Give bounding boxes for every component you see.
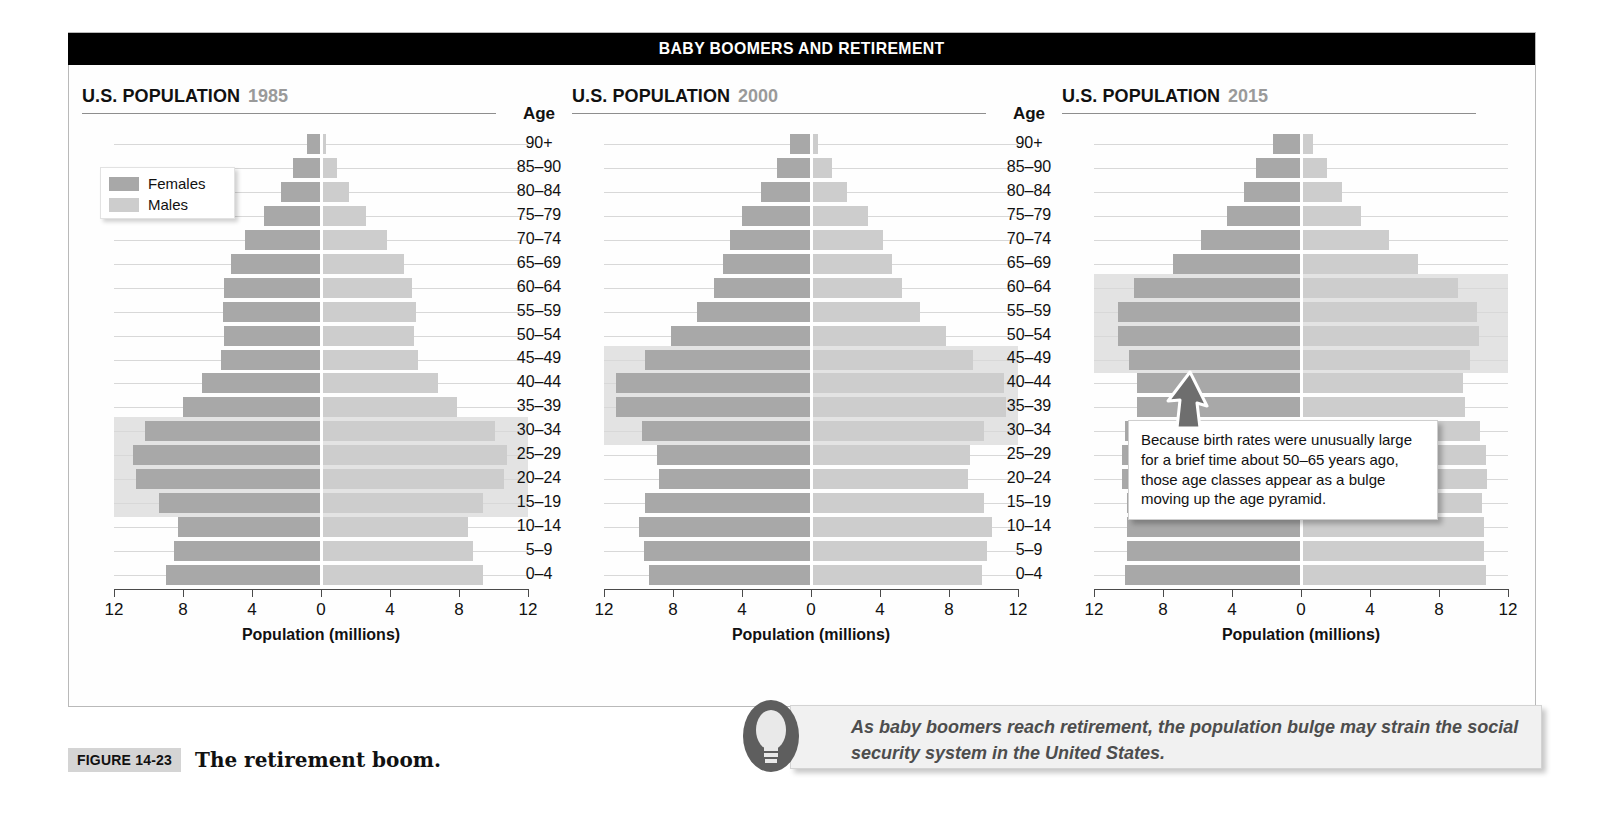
bar-females xyxy=(202,373,321,393)
bar-males xyxy=(321,206,366,226)
x-axis-tick-label: 8 xyxy=(1434,600,1443,620)
age-axis-column-left: Age 90+85–9080–8475–7970–7465–6960–6455–… xyxy=(500,86,578,646)
bar-males xyxy=(1301,230,1389,250)
age-axis-label: 35–39 xyxy=(990,397,1068,415)
population-pyramid-panel-2000: U.S. POPULATION 2000 128404812 Populatio… xyxy=(572,86,1022,666)
bar-males xyxy=(1301,182,1342,202)
bar-females xyxy=(183,397,321,417)
bar-females xyxy=(281,182,321,202)
age-axis-label: 10–14 xyxy=(500,517,578,535)
x-axis-tick-label: 4 xyxy=(1365,600,1374,620)
panel-rule xyxy=(82,113,496,114)
bar-females xyxy=(1127,541,1301,561)
figure-banner: BABY BOOMERS AND RETIREMENT xyxy=(68,33,1535,65)
legend-label-females: Females xyxy=(148,175,206,192)
legend-row-males: Males xyxy=(109,194,226,215)
bar-males xyxy=(811,158,832,178)
age-axis-label: 80–84 xyxy=(990,182,1068,200)
x-axis-title: Population (millions) xyxy=(604,626,1018,644)
x-axis-tick-label: 4 xyxy=(737,600,746,620)
panel-heading: U.S. POPULATION 2015 xyxy=(1062,86,1512,120)
bar-females xyxy=(777,158,812,178)
age-axis-column-right: Age 90+85–9080–8475–7970–7465–6960–6455–… xyxy=(990,86,1068,646)
x-axis-tick xyxy=(1232,589,1233,597)
age-axis-label: 30–34 xyxy=(990,421,1068,439)
bar-males xyxy=(1301,350,1470,370)
x-axis-tick-label: 0 xyxy=(806,600,815,620)
panel-heading: U.S. POPULATION 1985 xyxy=(82,86,532,120)
bar-males xyxy=(1301,541,1484,561)
bar-females xyxy=(790,134,811,154)
age-axis-label: 70–74 xyxy=(500,230,578,248)
plot-area xyxy=(604,132,1018,587)
callout-arrow-icon xyxy=(1160,370,1212,430)
bar-females xyxy=(714,278,811,298)
x-axis-tick-label: 0 xyxy=(1296,600,1305,620)
figure-tag: FIGURE 14-23 xyxy=(68,748,181,772)
x-axis-tick-label: 0 xyxy=(316,600,325,620)
age-axis-label: 90+ xyxy=(990,134,1068,152)
x-axis-tick xyxy=(390,589,391,597)
age-axis-label: 20–24 xyxy=(500,469,578,487)
bar-females xyxy=(649,565,811,585)
age-axis-label: 55–59 xyxy=(990,302,1068,320)
center-axis-line xyxy=(810,132,813,587)
panel-title: U.S. POPULATION xyxy=(82,86,240,107)
bar-males xyxy=(1301,206,1361,226)
x-axis-tick-label: 4 xyxy=(1227,600,1236,620)
bar-females xyxy=(730,230,811,250)
x-axis-tick-label: 8 xyxy=(1158,600,1167,620)
age-axis-label: 0–4 xyxy=(500,565,578,583)
age-axis-label: 20–24 xyxy=(990,469,1068,487)
x-axis-tick-label: 12 xyxy=(1499,600,1518,620)
age-axis-label: 70–74 xyxy=(990,230,1068,248)
panel-year: 1985 xyxy=(248,86,288,107)
age-axis-label: 45–49 xyxy=(990,349,1068,367)
x-axis-tick xyxy=(183,589,184,597)
bar-males xyxy=(811,517,992,537)
bar-females xyxy=(221,350,321,370)
bar-males xyxy=(1301,397,1465,417)
bar-females xyxy=(224,278,321,298)
x-axis: 128404812 xyxy=(1094,589,1508,590)
bar-males xyxy=(811,206,868,226)
age-axis-label: 65–69 xyxy=(990,254,1068,272)
x-axis-tick-label: 8 xyxy=(178,600,187,620)
bar-males xyxy=(321,302,416,322)
bar-females xyxy=(657,445,811,465)
x-axis-tick xyxy=(742,589,743,597)
x-axis-title: Population (millions) xyxy=(114,626,528,644)
callout-annotation: Because birth rates were unusually large… xyxy=(1128,420,1438,520)
age-axis-label: 65–69 xyxy=(500,254,578,272)
panel-rule xyxy=(572,113,986,114)
x-axis-tick xyxy=(1508,589,1509,597)
x-axis-tick-label: 12 xyxy=(595,600,614,620)
age-axis-header: Age xyxy=(990,104,1068,124)
age-axis-label: 30–34 xyxy=(500,421,578,439)
bar-males xyxy=(811,421,984,441)
lightbulb-icon xyxy=(740,697,802,775)
bar-females xyxy=(761,182,811,202)
bar-females xyxy=(136,469,321,489)
tip-text: As baby boomers reach retirement, the po… xyxy=(851,715,1529,766)
bar-males xyxy=(811,326,946,346)
bar-males xyxy=(1301,254,1418,274)
bar-females xyxy=(293,158,321,178)
bar-females xyxy=(1173,254,1301,274)
x-axis: 128404812 xyxy=(114,589,528,590)
age-axis-label: 40–44 xyxy=(990,373,1068,391)
figure-caption: FIGURE 14-23 The retirement boom. xyxy=(68,748,441,772)
x-axis-tick xyxy=(604,589,605,597)
age-axis-label: 40–44 xyxy=(500,373,578,391)
bar-males xyxy=(811,182,847,202)
center-axis-line xyxy=(320,132,323,587)
age-axis-label: 60–64 xyxy=(500,278,578,296)
age-axis-label: 10–14 xyxy=(990,517,1068,535)
legend-swatch-males xyxy=(109,198,139,212)
panel-title: U.S. POPULATION xyxy=(572,86,730,107)
bar-females xyxy=(742,206,811,226)
bar-males xyxy=(1301,278,1458,298)
bar-males xyxy=(321,254,404,274)
panel-year: 2015 xyxy=(1228,86,1268,107)
x-axis-tick xyxy=(1439,589,1440,597)
